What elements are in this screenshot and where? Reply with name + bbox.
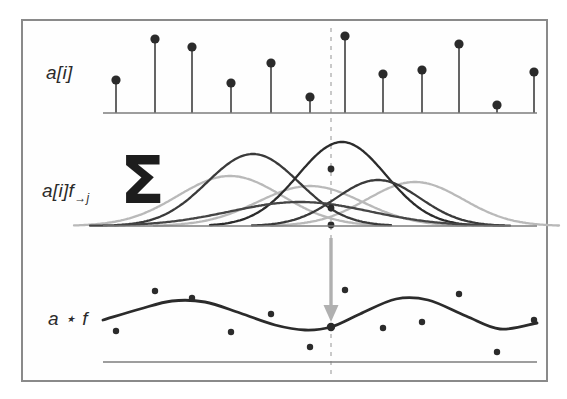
output-sample-dot-9 (419, 319, 425, 325)
output-sample-dot-7 (342, 287, 348, 293)
arrow-head (324, 305, 339, 322)
output-sample-dot-0 (113, 328, 119, 334)
convolution-output-curve (103, 298, 537, 331)
output-sample-dot-10 (456, 291, 462, 297)
stem-dot-3 (226, 78, 235, 87)
convolution-curve-group (103, 287, 537, 355)
stem-dot-5 (305, 92, 314, 101)
mid-contribution-dot (328, 205, 335, 212)
output-sample-dot-2 (189, 295, 195, 301)
output-highlight-dot (327, 323, 335, 331)
output-sample-dot-5 (307, 344, 313, 350)
stem-dot-9 (454, 39, 463, 48)
stem-dot-11 (529, 67, 538, 76)
stem-dot-1 (150, 34, 159, 43)
gaussian-light-1 (74, 176, 386, 225)
input-signal-stems-group (111, 31, 538, 113)
output-sample-dot-11 (494, 349, 500, 355)
peak-contribution-dot (328, 166, 335, 173)
stem-dot-0 (111, 75, 120, 84)
figure-container: a[i] a[i]f→j a ⋆ f Σ (0, 0, 567, 399)
stem-dot-8 (417, 65, 426, 74)
base-contribution-dot (328, 222, 335, 229)
output-sample-dot-8 (380, 325, 386, 331)
output-sample-dot-3 (228, 329, 234, 335)
output-sample-dot-12 (531, 317, 537, 323)
output-sample-dot-4 (268, 311, 274, 317)
stem-dot-4 (266, 58, 275, 67)
stem-dot-6 (340, 31, 349, 40)
stem-dot-7 (378, 69, 387, 78)
output-sample-dot-1 (152, 288, 158, 294)
stem-dot-10 (492, 100, 501, 109)
plot-svg (0, 0, 567, 399)
stem-dot-2 (187, 42, 196, 51)
gaussian-curves-group (74, 142, 559, 228)
down-arrow-group (324, 238, 339, 322)
